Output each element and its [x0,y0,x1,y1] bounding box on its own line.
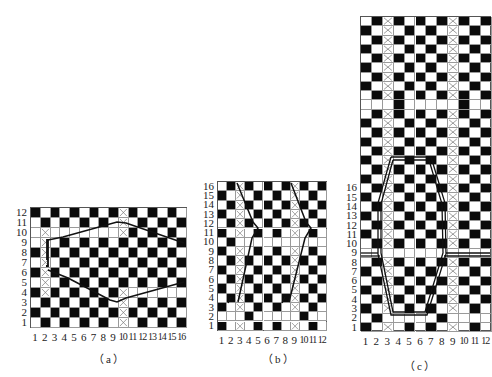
weave-cell [309,247,318,256]
weave-cell [481,239,492,248]
weave-cell [372,184,383,193]
weave-cell [41,218,51,228]
weave-cell [282,294,291,303]
row-label: 4 [11,287,27,297]
weave-cell [227,294,236,303]
weave-cell [470,295,481,304]
weave-cell [394,230,405,239]
weave-cell [282,191,291,200]
weave-cell [481,119,492,128]
weave-cell [254,219,263,228]
weave-cell [372,193,383,202]
weave-cell [448,175,459,184]
weave-cell [318,191,327,200]
weave-cell [405,147,416,156]
weave-cell [416,258,427,267]
weave-cell [405,110,416,119]
weave-cell [416,54,427,63]
weave-cell [394,54,405,63]
weave-cell [70,298,80,308]
weave-cell [372,91,383,100]
weave-cell [291,266,300,275]
weave-cell [481,138,492,147]
weave-cell [448,239,459,248]
weave-cell [383,323,394,332]
weave-cell [481,175,492,184]
weave-cell [109,278,119,288]
weave-cell [318,229,327,238]
weave-cell [227,312,236,321]
weave-cell [282,182,291,191]
weave-cell [148,298,158,308]
weave-cell [416,267,427,276]
weave-cell [405,249,416,258]
weave-cell [227,201,236,210]
weave-cell [309,256,318,265]
weave-cell [383,202,394,211]
weave-cell [148,238,158,248]
weave-cell [416,202,427,211]
weave-cell [218,210,227,219]
weave-cell [448,100,459,109]
weave-cell [254,284,263,293]
weave-cell [236,191,245,200]
weave-cell [448,258,459,267]
weave-cell [481,73,492,82]
weave-cell [394,147,405,156]
weave-cell [459,295,470,304]
weave-cell [264,182,273,191]
weave-cell [383,193,394,202]
weave-cell [470,73,481,82]
weave-cell [300,229,309,238]
weave-cell [459,175,470,184]
weave-cell [361,100,372,109]
row-label: 1 [341,322,357,332]
weave-cell [426,175,437,184]
weave-cell [70,278,80,288]
weave-cell [361,323,372,332]
weave-cell [177,318,187,328]
weave-cell [99,278,109,288]
weave-cell [405,295,416,304]
weave-cell [227,284,236,293]
weave-cell [291,238,300,247]
weave-cell [291,210,300,219]
weave-cell [481,314,492,323]
weave-cell [372,54,383,63]
weave-cell [448,82,459,91]
weave-cell [138,298,148,308]
weave-cell [394,249,405,258]
weave-cell [254,275,263,284]
weave-cell [282,238,291,247]
weave-cell [138,248,148,258]
weave-cell [264,256,273,265]
weave-cell [426,119,437,128]
weave-cell [109,268,119,278]
weave-cell [99,228,109,238]
weave-cell [300,266,309,275]
weave-cell [60,298,70,308]
weave-cell [273,219,282,228]
weave-cell [309,303,318,312]
weave-cell [416,147,427,156]
weave-cell [459,221,470,230]
weave-cell [361,26,372,35]
weave-cell [448,128,459,137]
weave-cell [90,288,100,298]
weave-cell [264,210,273,219]
weave-cell [158,298,168,308]
weave-cell [405,304,416,313]
weave-cell [470,230,481,239]
weave-cell [383,54,394,63]
weave-cell [426,286,437,295]
weave-cell [138,308,148,318]
weave-cell [41,258,51,268]
weave-cell [245,284,254,293]
weave-cell [218,256,227,265]
weave-cell [426,54,437,63]
weave-cell [426,73,437,82]
weave-cell [119,268,129,278]
weave-cell [459,184,470,193]
weave-cell [372,212,383,221]
weave-cell [394,193,405,202]
